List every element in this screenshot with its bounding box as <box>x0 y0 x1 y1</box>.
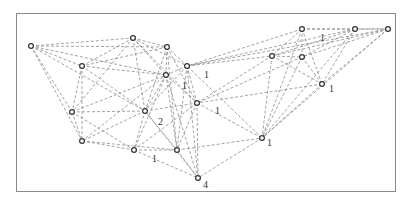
graph-edge <box>272 56 322 84</box>
graph-edge <box>302 29 388 57</box>
graph-edge <box>197 84 322 103</box>
graph-node <box>300 55 305 60</box>
edges <box>31 29 388 178</box>
graph-edge <box>31 46 82 66</box>
graph-edge <box>133 38 167 47</box>
graph-node <box>260 136 265 141</box>
graph-node <box>164 73 169 78</box>
graph-edge <box>262 29 302 138</box>
graph-node <box>270 54 275 59</box>
graph-edge <box>272 29 388 56</box>
graph-edge <box>72 112 82 141</box>
graph-edge <box>187 56 272 66</box>
graph-edge <box>262 56 272 138</box>
graph-edge <box>31 46 167 47</box>
graph-node <box>131 36 136 41</box>
graph-node <box>165 45 170 50</box>
graph-node <box>300 27 305 32</box>
graph-edge <box>31 46 72 112</box>
edge-weight-label: 1 <box>215 105 220 116</box>
graph-edge <box>72 75 166 112</box>
graph-node <box>196 176 201 181</box>
graph-edge <box>197 103 262 138</box>
graph-edge <box>272 29 302 56</box>
graph-edge <box>187 29 302 66</box>
edge-weight-label: 1 <box>204 69 209 80</box>
edge-weight-label: 1 <box>182 80 187 91</box>
graph-node <box>320 82 325 87</box>
graph-node <box>143 109 148 114</box>
graph-node <box>132 148 137 153</box>
edge-weight-label: 1 <box>267 137 272 148</box>
graph-edge <box>133 38 145 111</box>
graph-node <box>185 64 190 69</box>
graph-edge <box>272 56 302 57</box>
graph-edge <box>187 29 388 66</box>
edge-weight-label: 1 <box>152 153 157 164</box>
edge-weight-label: 4 <box>203 179 208 190</box>
graph-edge <box>72 66 82 112</box>
edge-weight-label: 2 <box>158 116 163 127</box>
graph-edge <box>31 46 166 75</box>
graph-edge <box>198 138 262 178</box>
nodes <box>29 27 391 181</box>
graph-edge <box>262 29 355 138</box>
edge-weight-label: 1 <box>320 32 325 43</box>
graph-edge <box>82 141 177 150</box>
graph-node <box>70 110 75 115</box>
graph-node <box>386 27 391 32</box>
graph-edge <box>134 111 145 150</box>
graph-edge <box>134 150 198 178</box>
graph-edge <box>133 38 187 66</box>
graph-edge <box>187 29 355 66</box>
graph-node <box>80 64 85 69</box>
graph-edge <box>187 66 197 103</box>
graph-node <box>80 139 85 144</box>
graph-node <box>29 44 34 49</box>
graph-edge <box>145 111 198 178</box>
graph-edge <box>197 57 302 103</box>
graph-edge <box>31 38 133 46</box>
graph-edge <box>322 29 355 84</box>
edge-weight-label: 1 <box>329 83 334 94</box>
graph-edge <box>82 111 145 141</box>
graph-node <box>195 101 200 106</box>
graph-edge <box>167 47 187 66</box>
graph-node <box>175 148 180 153</box>
graph-edge <box>72 111 145 112</box>
graph-edge <box>134 75 166 150</box>
network-graph: 111121114 <box>0 0 409 202</box>
graph-node <box>353 27 358 32</box>
graph-edge <box>166 47 167 75</box>
graph-edge <box>82 47 167 66</box>
graph-edge <box>82 66 166 75</box>
graph-edge <box>82 38 133 66</box>
graph-edge <box>177 138 262 150</box>
graph-edge <box>31 46 82 141</box>
graph-edge <box>82 141 134 150</box>
